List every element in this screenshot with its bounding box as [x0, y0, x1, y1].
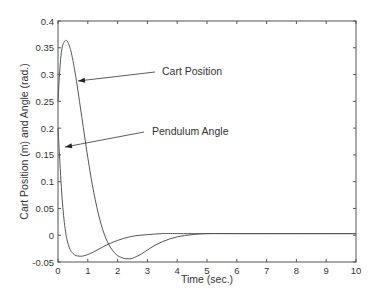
annotation-label: Pendulum Angle	[152, 125, 229, 137]
x-tick-label: 10	[351, 265, 362, 276]
annotation-arrow	[78, 72, 155, 81]
annotation-label: Cart Position	[162, 65, 222, 77]
y-tick-label: 0.05	[36, 203, 55, 214]
x-tick-label: 9	[324, 265, 329, 276]
y-tick-label: 0.4	[41, 16, 54, 27]
y-tick-label: 0.1	[41, 176, 54, 187]
series-pendulum-angle	[58, 128, 356, 256]
x-tick-label: 4	[175, 265, 180, 276]
x-tick-label: 1	[85, 265, 90, 276]
chart-canvas: 012345678910-0.0500.050.10.150.20.250.30…	[0, 0, 379, 301]
y-axis-label: Cart Position (m) and Angle (rad.)	[18, 63, 30, 219]
axis-ticks: 012345678910-0.0500.050.10.150.20.250.30…	[32, 16, 361, 277]
x-tick-label: 6	[234, 265, 239, 276]
axes-box	[58, 21, 356, 262]
x-axis-label: Time (sec.)	[181, 273, 233, 285]
y-tick-label: 0.25	[36, 96, 55, 107]
arrowhead-icon	[65, 143, 72, 148]
y-tick-label: 0	[49, 230, 54, 241]
y-tick-label: -0.05	[32, 257, 54, 268]
x-tick-label: 7	[264, 265, 269, 276]
annotation-arrow	[65, 132, 144, 147]
annotations: Cart PositionPendulum Angle	[65, 65, 229, 148]
y-tick-label: 0.35	[36, 42, 55, 53]
x-tick-label: 0	[55, 265, 60, 276]
x-tick-label: 3	[145, 265, 150, 276]
y-tick-label: 0.15	[36, 149, 55, 160]
x-tick-label: 8	[294, 265, 299, 276]
arrowhead-icon	[78, 78, 85, 83]
y-tick-label: 0.2	[41, 123, 54, 134]
x-tick-label: 2	[115, 265, 120, 276]
y-tick-label: 0.3	[41, 69, 54, 80]
